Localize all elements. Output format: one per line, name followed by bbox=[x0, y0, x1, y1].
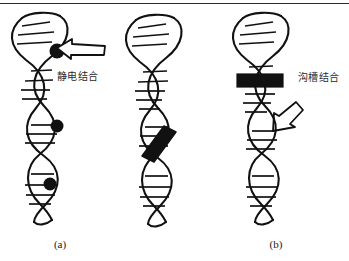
intercalator-marker bbox=[237, 74, 283, 87]
panel-c: 嵌插结合 (c) bbox=[215, 0, 331, 261]
panel-b: 沟槽结合 (b) bbox=[110, 0, 226, 261]
pointer-arrow-a bbox=[55, 36, 107, 62]
dna-binding-figure: 静电结合 (a) bbox=[0, 0, 349, 261]
dna-helix-b bbox=[110, 8, 226, 230]
groove-binder-marker bbox=[142, 126, 176, 162]
panel-a: 静电结合 (a) bbox=[0, 0, 116, 261]
binding-label-a: 静电结合 bbox=[57, 68, 99, 83]
dna-helix-c bbox=[215, 8, 331, 230]
panel-caption-a: (a) bbox=[2, 238, 118, 250]
